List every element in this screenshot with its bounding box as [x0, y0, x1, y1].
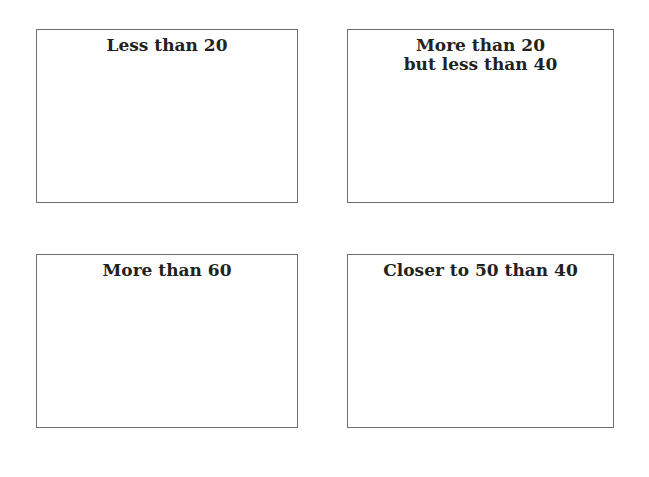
box-label: More than 60: [37, 255, 297, 280]
box-label-line: Less than 20: [37, 36, 297, 55]
box-label-line: but less than 40: [348, 55, 613, 74]
box-label: Closer to 50 than 40: [348, 255, 613, 280]
box-label: Less than 20: [37, 30, 297, 55]
box-label-line: More than 20: [348, 36, 613, 55]
box-label-line: More than 60: [37, 261, 297, 280]
sorting-box-between-20-and-40: More than 20 but less than 40: [347, 29, 614, 203]
sorting-box-closer-to-50: Closer to 50 than 40: [347, 254, 614, 428]
box-label-line: Closer to 50 than 40: [348, 261, 613, 280]
box-label: More than 20 but less than 40: [348, 30, 613, 74]
sorting-box-more-than-60: More than 60: [36, 254, 298, 428]
sorting-box-less-than-20: Less than 20: [36, 29, 298, 203]
